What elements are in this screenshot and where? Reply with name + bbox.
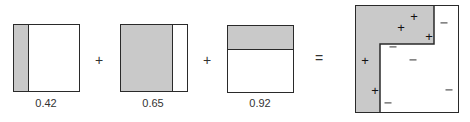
positive-sample: + xyxy=(371,84,379,97)
negative-sample xyxy=(441,22,448,23)
negative-sample xyxy=(410,59,417,60)
negative-sample xyxy=(390,46,397,47)
positive-sample: + xyxy=(397,21,405,34)
combined-shaded-region xyxy=(0,0,470,122)
negative-sample xyxy=(385,102,392,103)
positive-sample: + xyxy=(410,10,418,23)
positive-sample: + xyxy=(425,30,433,43)
positive-sample: + xyxy=(361,54,369,67)
negative-sample xyxy=(446,89,453,90)
